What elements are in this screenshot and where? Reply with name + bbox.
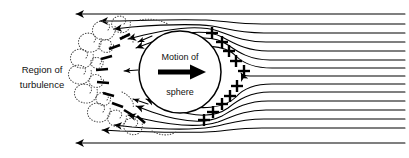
swirl-icon (122, 92, 133, 108)
minus-icon (97, 82, 109, 83)
fluid-flow-diagram: Region of turbulence Motion of sphere (0, 0, 409, 158)
streamline-center (241, 73, 405, 76)
swirl-icon (108, 110, 127, 127)
plus-icon (216, 36, 228, 48)
plus-icon (224, 90, 236, 102)
swirl-icon (112, 16, 131, 33)
plus-icon (223, 45, 235, 57)
streamline (100, 20, 405, 24)
motion-label-line1: Motion of (161, 52, 199, 62)
plus-icon (238, 65, 250, 77)
streamline (102, 128, 405, 132)
streamline-group (76, 14, 405, 143)
turbulence-label-line2: turbulence (20, 79, 64, 90)
plus-icon (216, 98, 228, 110)
motion-label-line2: sphere (166, 87, 194, 97)
arrow-left-icon (138, 36, 152, 42)
minus-icon (112, 103, 123, 107)
minus-icon (137, 116, 145, 123)
turbulence-label-line1: Region of (22, 64, 63, 75)
arrow-left-icon (124, 70, 138, 71)
swirl-icon (70, 49, 93, 68)
swirl-icon (99, 39, 114, 52)
minus-icon (96, 69, 108, 70)
plus-icon (231, 80, 243, 92)
minus-icon (101, 56, 112, 59)
arrow-left-icon (133, 99, 148, 104)
minus-icon (103, 93, 114, 96)
swirl-icon (78, 33, 101, 52)
plus-icon (230, 55, 242, 67)
diagram-canvas: Region of turbulence Motion of sphere (0, 0, 409, 158)
swirl-icon (87, 103, 110, 122)
swirl-icon (89, 74, 104, 87)
